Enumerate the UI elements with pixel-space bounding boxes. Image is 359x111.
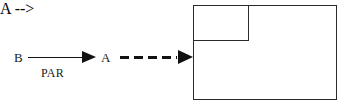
solid-arrow-head-icon xyxy=(82,51,96,63)
par-relation-diagram: A --> B PAR A B A xyxy=(0,0,359,111)
inner-rectangle-a: A xyxy=(193,5,249,41)
target-node-label: A xyxy=(101,51,110,64)
source-node-label: B xyxy=(14,51,23,64)
par-edge-label: PAR xyxy=(41,67,64,79)
dashed-arrow-shaft xyxy=(120,56,177,59)
dashed-arrow-head-icon xyxy=(178,50,193,64)
solid-arrow-shaft xyxy=(28,57,85,58)
